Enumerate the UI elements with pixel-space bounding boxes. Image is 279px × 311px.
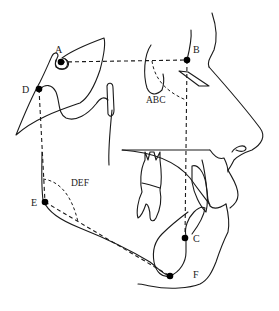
molar-outline <box>137 152 161 221</box>
point-F <box>167 273 174 280</box>
lower-lip-profile <box>138 204 229 288</box>
label-C: C <box>193 234 200 244</box>
nasal-bone-outline <box>187 30 191 60</box>
point-C <box>182 235 189 242</box>
label-A: A <box>55 45 62 55</box>
upper-lip-profile <box>228 170 238 208</box>
label-angle-ABC: ABC <box>146 96 166 106</box>
lower-incisor <box>185 207 205 236</box>
symphysis-outline <box>153 212 188 276</box>
diagram-svg <box>0 0 279 311</box>
nose-profile <box>209 67 263 170</box>
line-A-B <box>61 60 187 62</box>
nostril-outline <box>232 146 246 152</box>
cephalometric-diagram: A B C D E F ABC DEF <box>0 0 279 311</box>
soft-tissue-forehead <box>208 13 216 67</box>
label-F: F <box>193 270 199 280</box>
pterygoid-line <box>109 110 112 165</box>
upper-incisor-outline <box>210 150 228 172</box>
point-B <box>184 57 191 64</box>
label-angle-DEF: DEF <box>71 179 89 189</box>
label-D: D <box>22 85 29 95</box>
molar-crown-line <box>142 183 160 188</box>
ramus-outline <box>42 152 170 276</box>
point-E <box>42 199 49 206</box>
point-D <box>36 86 43 93</box>
line-B-C <box>185 60 187 238</box>
orbit-outline <box>145 45 164 94</box>
label-B: B <box>193 45 200 55</box>
point-A <box>58 59 65 66</box>
upper-incisor <box>192 166 208 212</box>
nasal-process-outline <box>179 71 209 86</box>
line-E-F <box>45 202 170 276</box>
label-E: E <box>31 198 37 208</box>
